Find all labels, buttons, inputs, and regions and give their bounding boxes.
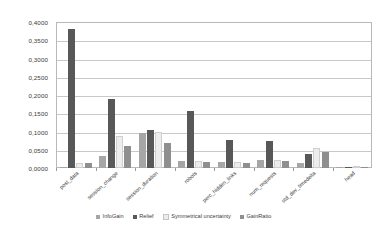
bar-group (135, 22, 175, 168)
legend-entry: InfoGain (96, 214, 124, 220)
bar-group (96, 22, 136, 168)
bar (139, 133, 146, 168)
bars-layer (56, 22, 372, 168)
bar (266, 141, 273, 168)
y-tick-label: 0,3500 (28, 37, 48, 44)
x-tick-label: post_data (58, 170, 80, 190)
legend-entry: Symmetrical uncertainty (163, 214, 231, 220)
legend-swatch (133, 215, 137, 219)
bar (257, 160, 264, 168)
bar (147, 130, 154, 168)
y-tick-label: 0,2000 (28, 92, 48, 99)
y-tick-label: 0,4000 (28, 19, 48, 26)
x-tick-label: std_dev_timedelta (280, 170, 317, 204)
x-tick-label: robots (183, 170, 198, 184)
chart-legend: InfoGainReliefSymmetrical uncertaintyGai… (96, 214, 271, 220)
x-tick-label: perc_hidden_links (201, 170, 237, 204)
bar (226, 140, 233, 168)
bar (108, 99, 115, 168)
bar-group (254, 22, 294, 168)
y-tick-label: 0,3000 (28, 55, 48, 62)
bar (155, 132, 162, 168)
bar-group (293, 22, 333, 168)
x-tick-label: head (343, 170, 356, 182)
legend-label: Symmetrical uncertainty (171, 214, 231, 220)
x-tick-label: num_requests (248, 170, 277, 197)
bar (99, 156, 106, 168)
legend-swatch (240, 215, 244, 219)
bar (187, 111, 194, 168)
bar (282, 161, 289, 168)
bar (195, 161, 202, 168)
bar (124, 146, 131, 168)
legend-swatch (96, 215, 100, 219)
y-axis: 0,40000,35000,30000,25000,20000,15000,10… (0, 22, 52, 168)
legend-label: Relief (139, 214, 153, 220)
bar (164, 143, 171, 168)
bar-group (175, 22, 215, 168)
legend-label: InfoGain (103, 214, 124, 220)
x-tick-label: session_change (86, 170, 119, 201)
bar-chart: 0,40000,35000,30000,25000,20000,15000,10… (0, 0, 380, 242)
legend-label: GainRatio (246, 214, 271, 220)
bar (305, 154, 312, 168)
x-tick-label: session_duration (124, 170, 158, 202)
x-axis: post_datasession_changesession_durationr… (0, 168, 380, 214)
bar (322, 152, 329, 168)
bar (116, 136, 123, 168)
y-tick-label: 0,1000 (28, 128, 48, 135)
bar (178, 161, 185, 168)
bar (274, 160, 281, 168)
bar-group (56, 22, 96, 168)
y-tick-label: 0,2500 (28, 73, 48, 80)
y-tick-label: 0,0500 (28, 146, 48, 153)
bar (313, 148, 320, 168)
bar-group (214, 22, 254, 168)
bar-group (333, 22, 373, 168)
legend-entry: Relief (133, 214, 154, 220)
legend-entry: GainRatio (240, 214, 271, 220)
legend-swatch (163, 214, 169, 220)
bar (68, 29, 75, 168)
y-tick-label: 0,1500 (28, 110, 48, 117)
